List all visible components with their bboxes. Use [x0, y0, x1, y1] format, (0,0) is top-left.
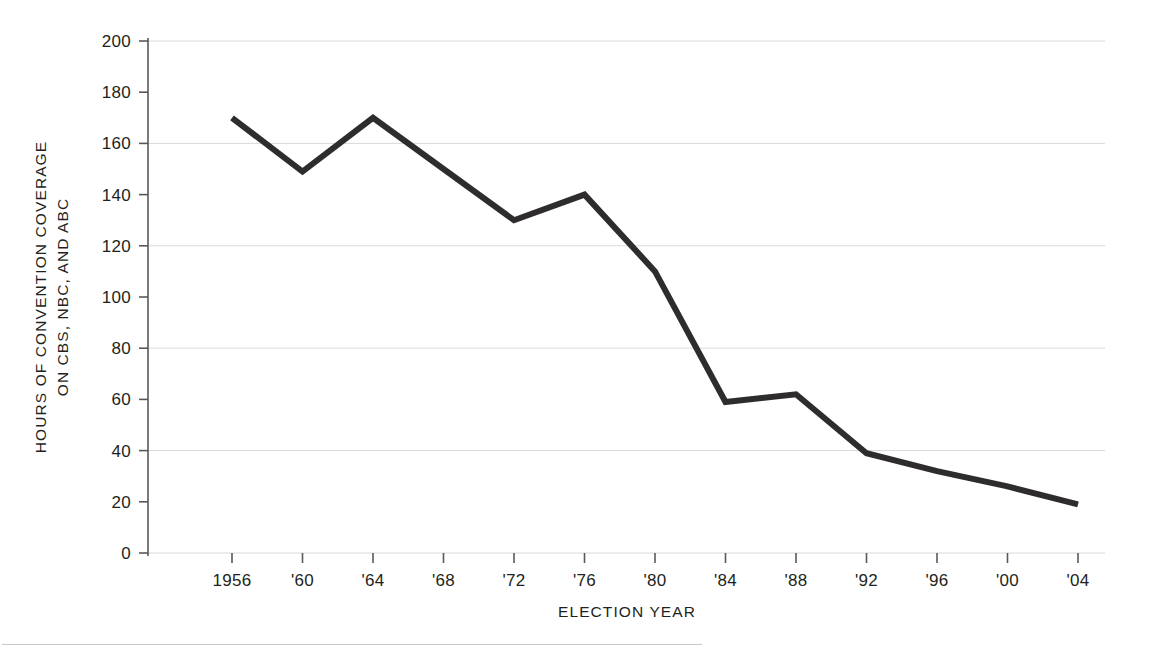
line-chart: 020406080100120140160180200 1956'60'64'6…: [0, 0, 1152, 658]
figure-container: 020406080100120140160180200 1956'60'64'6…: [0, 0, 1152, 658]
x-tick-label-12: '04: [1066, 571, 1089, 590]
data-series-line: [232, 118, 1078, 505]
y-tick-marks-group: [139, 41, 148, 553]
x-tick-label-10: '96: [925, 571, 948, 590]
y-tick-label-140: 140: [102, 186, 131, 205]
y-tick-label-180: 180: [102, 83, 131, 102]
y-tick-label-160: 160: [102, 134, 131, 153]
x-tick-label-5: '76: [573, 571, 596, 590]
x-tick-label-9: '92: [855, 571, 878, 590]
x-tick-marks-group: [232, 553, 1078, 563]
x-tick-label-6: '80: [643, 571, 666, 590]
y-tick-label-40: 40: [111, 442, 131, 461]
x-tick-label-4: '72: [502, 571, 525, 590]
y-tick-labels-group: 020406080100120140160180200: [102, 32, 131, 563]
x-tick-label-1: '60: [291, 571, 314, 590]
y-tick-label-100: 100: [102, 288, 131, 307]
y-tick-label-200: 200: [102, 32, 131, 51]
y-axis-title-line1: HOURS OF CONVENTION COVERAGE: [32, 141, 49, 453]
y-tick-label-120: 120: [102, 237, 131, 256]
x-tick-label-2: '64: [361, 571, 384, 590]
x-tick-label-7: '84: [714, 571, 737, 590]
y-tick-label-80: 80: [111, 339, 131, 358]
x-tick-label-3: '68: [432, 571, 455, 590]
x-tick-label-0: 1956: [212, 571, 251, 590]
x-tick-label-8: '88: [784, 571, 807, 590]
bottom-divider-rule: [2, 644, 702, 645]
y-tick-label-60: 60: [111, 390, 131, 409]
x-axis-title: ELECTION YEAR: [558, 603, 696, 620]
x-tick-labels-group: 1956'60'64'68'72'76'80'84'88'92'96'00'04: [212, 571, 1089, 590]
y-axis-title-line2: ON CBS, NBC, AND ABC: [54, 198, 71, 397]
y-tick-label-0: 0: [121, 544, 131, 563]
x-tick-label-11: '00: [996, 571, 1019, 590]
y-tick-label-20: 20: [111, 493, 131, 512]
